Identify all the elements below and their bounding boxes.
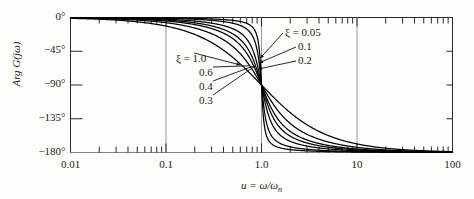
x-tick-label: 100: [433, 158, 473, 170]
zeta-callout-label: 0.6: [199, 66, 213, 78]
y-tick-label: −135°: [38, 111, 65, 123]
zeta-callout-label: 0.2: [298, 54, 312, 66]
x-tick-label: 0.1: [146, 158, 186, 170]
zeta-callout-label: 0.3: [199, 94, 213, 106]
y-tick-label: −45°: [44, 43, 66, 55]
x-tick-label: 10: [337, 158, 377, 170]
x-axis-label-main: u = ω/ω: [241, 179, 278, 191]
y-tick-label: −180°: [38, 145, 65, 157]
y-tick-label: −90°: [44, 77, 66, 89]
bode-phase-plot-figure: Arg G(jω) 0°−45°−90°−135°−180° 0.010.11.…: [0, 0, 474, 199]
x-tick-label: 1.0: [242, 158, 282, 170]
zeta-callout-label: ξ = 1.0: [176, 52, 206, 64]
y-tick-label: 0°: [56, 10, 66, 22]
zeta-callout-label: 0.1: [298, 40, 312, 52]
x-axis-label: u = ω/ωn: [202, 179, 322, 194]
x-tick-label: 0.01: [51, 158, 91, 170]
x-axis-label-subscript: n: [278, 185, 282, 194]
zeta-callout-label: 0.4: [199, 80, 213, 92]
zeta-callout-label: ξ = 0.05: [285, 26, 321, 38]
